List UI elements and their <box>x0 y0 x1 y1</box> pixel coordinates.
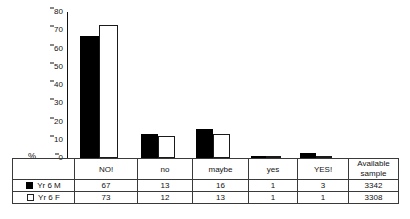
category-header-no: no <box>138 159 193 180</box>
table-cell-value: 1 <box>298 192 349 204</box>
table-cell-value: 13 <box>138 180 193 192</box>
table-row: Yr 6 M671316133342 <box>13 180 399 192</box>
category-header-yes: YES! <box>298 159 349 180</box>
table-cell-sample: 3308 <box>349 192 399 204</box>
y-tick-label: 40 <box>54 81 68 89</box>
y-tick-mark <box>55 154 59 155</box>
y-tick-mark <box>50 135 54 136</box>
bar-yr6f <box>213 134 230 158</box>
table-header-row: NO!nomaybeyesYES!Availablesample <box>13 159 399 180</box>
bar-yr6f <box>99 25 118 158</box>
bar-yr6m <box>196 129 213 158</box>
data-table-wrapper: NO!nomaybeyesYES!AvailablesampleYr 6 M67… <box>12 158 398 210</box>
bar-group <box>185 12 241 158</box>
y-tick-mark <box>50 8 54 9</box>
category-header-no: NO! <box>75 159 138 180</box>
bar-yr6m <box>141 134 158 158</box>
legend-swatch-icon <box>26 182 33 189</box>
available-sample-header-line2: sample <box>349 169 398 179</box>
y-tick-label: 80 <box>54 8 68 16</box>
table-cell-value: 13 <box>193 192 249 204</box>
y-tick-label: 20 <box>54 118 68 126</box>
table-cell-value: 12 <box>138 192 193 204</box>
table-cell-sample: 3342 <box>349 180 399 192</box>
data-table: NO!nomaybeyesYES!AvailablesampleYr 6 M67… <box>12 158 399 204</box>
bar-chart-figure: % 80706050403020100 NO!nomaybeyesYES!Ava… <box>0 0 410 219</box>
y-tick-label: 30 <box>54 99 68 107</box>
bar-group <box>241 12 290 158</box>
table-cell-value: 67 <box>75 180 138 192</box>
table-cell-value: 16 <box>193 180 249 192</box>
bar-group <box>68 12 130 158</box>
table-cell-value: 1 <box>249 192 298 204</box>
bar-yr6m <box>80 36 99 158</box>
y-tick-label: 10 <box>54 136 68 144</box>
table-cell-value: 1 <box>249 180 298 192</box>
category-header-maybe: maybe <box>193 159 249 180</box>
legend-cell: Yr 6 M <box>13 180 75 192</box>
y-tick-mark <box>50 44 54 45</box>
available-sample-header: Availablesample <box>349 159 399 180</box>
y-tick-mark <box>50 62 54 63</box>
legend-label: Yr 6 F <box>38 193 60 202</box>
table-cell-value: 73 <box>75 192 138 204</box>
category-header-yes: yes <box>249 159 298 180</box>
bar-group <box>130 12 185 158</box>
y-tick-mark <box>50 117 54 118</box>
bar-group <box>290 12 341 158</box>
y-tick-label: 50 <box>54 63 68 71</box>
legend-swatch-icon <box>27 194 34 201</box>
table-row: Yr 6 F731213113308 <box>13 192 399 204</box>
y-tick-mark <box>50 26 54 27</box>
plot-area: 80706050403020100 <box>68 12 340 158</box>
table-corner-blank <box>13 159 75 180</box>
y-tick-label: 60 <box>54 45 68 53</box>
y-tick-label: 70 <box>54 26 68 34</box>
y-tick-mark <box>50 81 54 82</box>
bar-yr6f <box>158 136 175 158</box>
y-tick-mark <box>50 99 54 100</box>
legend-label: Yr 6 M <box>37 181 61 190</box>
legend-cell: Yr 6 F <box>13 192 75 204</box>
available-sample-header-line1: Available <box>349 159 398 169</box>
table-cell-value: 3 <box>298 180 349 192</box>
